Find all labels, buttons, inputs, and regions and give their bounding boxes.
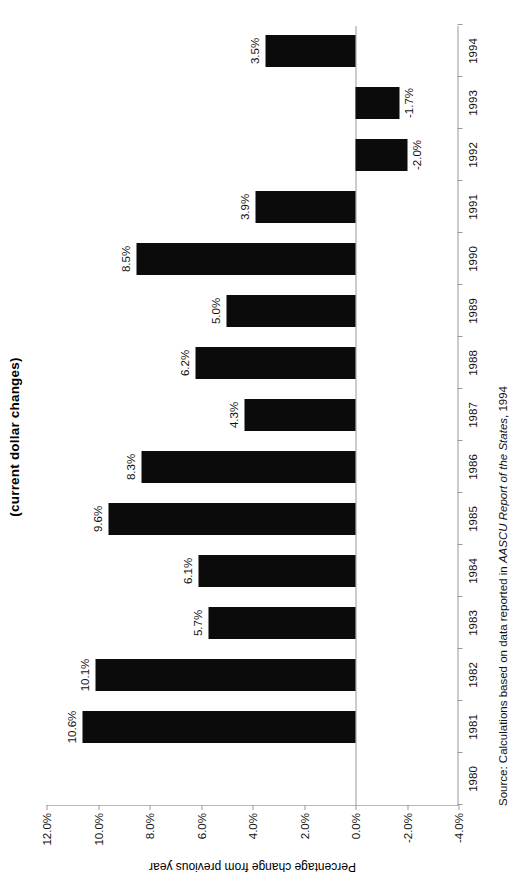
category-axis-label: 1987 bbox=[466, 402, 478, 428]
category-axis-tick bbox=[457, 804, 462, 805]
bar-chart-figure: (current dollar changes) Percentage chan… bbox=[0, 0, 521, 874]
value-axis-title-text: Percentage change from previous year bbox=[149, 860, 356, 874]
bar[interactable] bbox=[355, 139, 407, 171]
value-axis-tick-label: -2.0% bbox=[401, 813, 413, 843]
value-axis-tick-label: 8.0% bbox=[143, 813, 155, 839]
category-axis-label: 1981 bbox=[466, 714, 478, 740]
bar-value-label: 3.5% bbox=[248, 38, 260, 64]
category-axis-tick bbox=[457, 492, 462, 493]
category-axis-tick bbox=[457, 648, 462, 649]
category-axis-tick bbox=[457, 128, 462, 129]
bar[interactable] bbox=[141, 451, 355, 483]
bar[interactable] bbox=[95, 659, 355, 691]
category-axis-label: 1991 bbox=[466, 194, 478, 220]
source-suffix: , 1994 bbox=[496, 386, 508, 418]
chart-title: (current dollar changes) bbox=[6, 0, 21, 874]
source-note: Source: Calculations based on data repor… bbox=[496, 386, 508, 806]
category-axis-label: 1982 bbox=[466, 662, 478, 688]
bar[interactable] bbox=[355, 87, 399, 119]
category-axis-label: 1989 bbox=[466, 298, 478, 324]
value-axis-tick bbox=[201, 805, 202, 810]
category-axis-label: 1983 bbox=[466, 610, 478, 636]
value-axis-tick-label: 6.0% bbox=[195, 813, 207, 839]
category-axis-tick bbox=[457, 232, 462, 233]
category-axis-tick bbox=[457, 336, 462, 337]
value-axis-tick bbox=[149, 805, 150, 810]
value-axis-tick bbox=[98, 805, 99, 810]
category-axis-label: 1994 bbox=[466, 38, 478, 64]
category-axis-label: 1992 bbox=[466, 142, 478, 168]
category-axis-tick bbox=[457, 76, 462, 77]
value-axis-tick-label: 0.0% bbox=[349, 813, 361, 839]
value-axis-tick bbox=[458, 805, 459, 810]
category-axis-tick bbox=[457, 544, 462, 545]
value-axis-tick bbox=[407, 805, 408, 810]
bar[interactable] bbox=[255, 191, 355, 223]
value-axis-tick-label: 4.0% bbox=[246, 813, 258, 839]
bar[interactable] bbox=[136, 243, 355, 275]
plot-area: 12.0%10.0%8.0%6.0%4.0%2.0%0.0%-2.0%-4.0%… bbox=[46, 26, 458, 806]
category-axis-tick bbox=[457, 700, 462, 701]
category-axis-label: 1985 bbox=[466, 506, 478, 532]
bar-value-label: 8.5% bbox=[119, 246, 131, 272]
category-axis-label: 1986 bbox=[466, 454, 478, 480]
bar[interactable] bbox=[195, 347, 355, 379]
bar-value-label: 5.0% bbox=[209, 298, 221, 324]
category-axis-label: 1990 bbox=[466, 246, 478, 272]
category-axis-tick bbox=[457, 180, 462, 181]
value-axis-tick bbox=[46, 805, 47, 810]
bar-value-label: 8.3% bbox=[124, 454, 136, 480]
bar-value-label: 6.1% bbox=[181, 558, 193, 584]
category-axis-tick bbox=[457, 24, 462, 25]
source-prefix: Source: Calculations based on data repor… bbox=[496, 563, 508, 806]
category-axis-label: 1993 bbox=[466, 90, 478, 116]
bar-value-label: 3.9% bbox=[238, 194, 250, 220]
bar-value-label: 6.2% bbox=[178, 350, 190, 376]
bar-value-label: 4.3% bbox=[227, 402, 239, 428]
category-axis-label: 1980 bbox=[466, 766, 478, 792]
chart-canvas: (current dollar changes) Percentage chan… bbox=[0, 0, 521, 874]
bar[interactable] bbox=[108, 503, 355, 535]
bar[interactable] bbox=[208, 607, 355, 639]
value-axis-tick-label: -4.0% bbox=[452, 813, 464, 843]
bar[interactable] bbox=[198, 555, 355, 587]
bar-value-label: 5.7% bbox=[191, 610, 203, 636]
value-axis-tick-label: 12.0% bbox=[40, 813, 52, 846]
value-axis-title: Percentage change from previous year bbox=[46, 858, 458, 874]
category-axis-tick bbox=[457, 596, 462, 597]
category-axis-tick bbox=[457, 752, 462, 753]
source-italic: AASCU Report of the States bbox=[496, 418, 508, 563]
bar[interactable] bbox=[226, 295, 355, 327]
value-axis-tick-label: 10.0% bbox=[92, 813, 104, 846]
bar[interactable] bbox=[244, 399, 355, 431]
value-axis-tick bbox=[304, 805, 305, 810]
value-axis-tick bbox=[252, 805, 253, 810]
value-axis-tick-label: 2.0% bbox=[298, 813, 310, 839]
category-axis-tick bbox=[457, 284, 462, 285]
bar[interactable] bbox=[265, 35, 355, 67]
bar-value-label: 10.6% bbox=[65, 711, 77, 744]
bar-value-label: 9.6% bbox=[91, 506, 103, 532]
bar-value-label: -1.7% bbox=[402, 88, 414, 118]
bar-value-label: 10.1% bbox=[78, 659, 90, 692]
category-axis-tick bbox=[457, 440, 462, 441]
category-axis-tick bbox=[457, 388, 462, 389]
category-axis-label: 1984 bbox=[466, 558, 478, 584]
bar[interactable] bbox=[82, 711, 355, 743]
plot-inner: 12.0%10.0%8.0%6.0%4.0%2.0%0.0%-2.0%-4.0%… bbox=[46, 26, 457, 805]
value-axis-tick bbox=[355, 805, 356, 810]
chart-title-line: (current dollar changes) bbox=[6, 0, 21, 874]
category-axis-label: 1988 bbox=[466, 350, 478, 376]
bar-value-label: -2.0% bbox=[410, 140, 422, 170]
